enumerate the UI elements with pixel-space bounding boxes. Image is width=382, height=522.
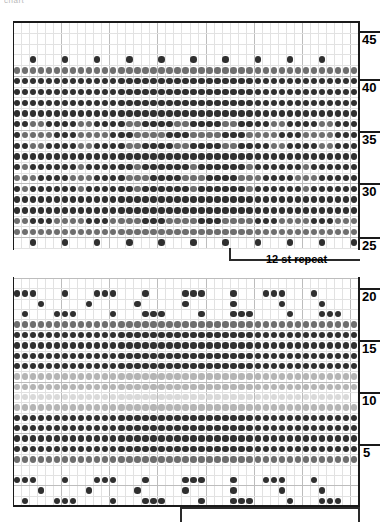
chart-cell-dot	[86, 456, 92, 462]
chart-cell-dot	[230, 186, 236, 192]
upper-chart-frame-right	[358, 21, 360, 250]
chart-cell-dot	[327, 435, 333, 441]
chart-cell-dot	[319, 456, 325, 462]
chart-cell-dot	[46, 153, 52, 159]
chart-cell-dot	[30, 121, 36, 127]
chart-cell-dot	[230, 321, 236, 327]
chart-cell-dot	[166, 121, 172, 127]
chart-cell-dot	[319, 100, 325, 106]
chart-cell-dot	[78, 132, 84, 138]
chart-cell-dot	[319, 229, 325, 235]
chart-cell-dot	[238, 196, 244, 202]
chart-cell-dot	[287, 78, 293, 84]
chart-cell-dot	[271, 78, 277, 84]
chart-cell-dot	[230, 332, 236, 338]
chart-cell-dot	[22, 121, 28, 127]
chart-cell-dot	[255, 456, 261, 462]
chart-cell-dot	[118, 132, 124, 138]
chart-cell-dot	[295, 384, 301, 390]
chart-cell-dot	[46, 456, 52, 462]
chart-cell-dot	[134, 332, 140, 338]
chart-cell-dot	[78, 404, 84, 410]
chart-cell-dot	[22, 498, 28, 504]
chart-cell-dot	[142, 143, 148, 149]
chart-cell-dot	[70, 456, 76, 462]
chart-cell-dot	[182, 384, 188, 390]
chart-cell-dot	[311, 446, 317, 452]
chart-cell-dot	[110, 446, 116, 452]
chart-cell-dot	[255, 353, 261, 359]
chart-cell-dot	[303, 89, 309, 95]
chart-cell-dot	[22, 332, 28, 338]
chart-cell-dot	[190, 143, 196, 149]
chart-cell-dot	[46, 218, 52, 224]
chart-cell-dot	[142, 153, 148, 159]
chart-cell-dot	[38, 207, 44, 213]
chart-cell-dot	[319, 207, 325, 213]
chart-cell-dot	[62, 477, 68, 483]
chart-cell-dot	[22, 353, 28, 359]
chart-cell-dot	[46, 164, 52, 170]
chart-cell-dot	[198, 384, 204, 390]
chart-cell-dot	[166, 415, 172, 421]
chart-cell-dot	[311, 477, 317, 483]
chart-cell-dot	[166, 332, 172, 338]
chart-cell-dot	[190, 415, 196, 421]
chart-cell-dot	[142, 196, 148, 202]
chart-cell-dot	[246, 100, 252, 106]
chart-cell-dot	[30, 132, 36, 138]
chart-cell-dot	[150, 121, 156, 127]
chart-cell-dot	[230, 311, 236, 317]
chart-cell-dot	[158, 394, 164, 400]
chart-cell-dot	[94, 100, 100, 106]
chart-cell-dot	[54, 404, 60, 410]
chart-cell-dot	[70, 446, 76, 452]
chart-cell-dot	[134, 164, 140, 170]
chart-cell-dot	[214, 456, 220, 462]
chart-cell-dot	[86, 164, 92, 170]
chart-cell-dot	[271, 143, 277, 149]
chart-cell-dot	[222, 404, 228, 410]
chart-cell-dot	[311, 373, 317, 379]
chart-cell-dot	[78, 373, 84, 379]
chart-cell-dot	[142, 218, 148, 224]
chart-cell-dot	[150, 342, 156, 348]
chart-cell-dot	[198, 132, 204, 138]
chart-cell-dot	[126, 229, 132, 235]
chart-cell-dot	[182, 121, 188, 127]
chart-cell-dot	[118, 153, 124, 159]
chart-cell-dot	[198, 89, 204, 95]
chart-cell-dot	[62, 342, 68, 348]
chart-cell-dot	[351, 121, 357, 127]
chart-cell-dot	[142, 132, 148, 138]
chart-cell-dot	[222, 110, 228, 116]
chart-cell-dot	[279, 132, 285, 138]
chart-cell-dot	[351, 321, 357, 327]
chart-cell-dot	[182, 404, 188, 410]
chart-cell-dot	[38, 301, 44, 307]
chart-cell-dot	[263, 143, 269, 149]
chart-cell-dot	[30, 321, 36, 327]
chart-cell-dot	[78, 342, 84, 348]
chart-cell-dot	[62, 239, 68, 245]
chart-cell-dot	[319, 153, 325, 159]
chart-cell-dot	[86, 121, 92, 127]
chart-cell-dot	[222, 363, 228, 369]
chart-cell-dot	[271, 175, 277, 181]
chart-cell-dot	[118, 218, 124, 224]
chart-cell-dot	[78, 415, 84, 421]
chart-cell-dot	[327, 446, 333, 452]
chart-cell-dot	[238, 363, 244, 369]
chart-cell-dot	[102, 332, 108, 338]
chart-cell-dot	[206, 353, 212, 359]
chart-cell-dot	[214, 207, 220, 213]
chart-cell-dot	[263, 332, 269, 338]
chart-cell-dot	[86, 218, 92, 224]
chart-cell-dot	[198, 207, 204, 213]
chart-cell-dot	[319, 446, 325, 452]
chart-cell-dot	[238, 186, 244, 192]
chart-cell-dot	[343, 78, 349, 84]
chart-cell-dot	[303, 218, 309, 224]
chart-cell-dot	[263, 78, 269, 84]
chart-cell-dot	[190, 363, 196, 369]
